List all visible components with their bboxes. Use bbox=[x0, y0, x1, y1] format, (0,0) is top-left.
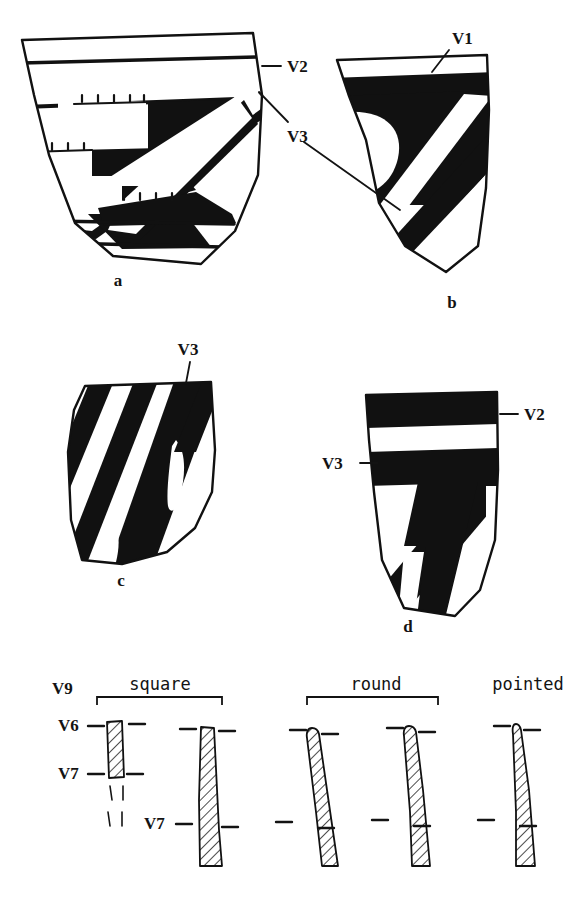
sherd-d-band-v3 bbox=[362, 448, 503, 486]
profile-group-title-pointed: pointed bbox=[492, 674, 564, 694]
panel-caption-b: b bbox=[447, 293, 456, 312]
panel-caption-c: c bbox=[117, 571, 125, 590]
callout-a-v2: V2 bbox=[287, 57, 308, 76]
profile-square-short-body bbox=[107, 721, 124, 778]
figure-plate: a b c bbox=[0, 0, 586, 912]
figure-canvas: a b c bbox=[0, 0, 586, 912]
callout-d-v3: V3 bbox=[322, 454, 343, 473]
callout-d-v2: V2 bbox=[524, 405, 545, 424]
callout-a-b-v3: V3 bbox=[287, 127, 308, 146]
profile-group-title-round: round bbox=[350, 674, 401, 694]
panel-caption-a: a bbox=[114, 271, 123, 290]
profile-label-v7-mid: V7 bbox=[144, 814, 165, 833]
profile-group-title-square: square bbox=[129, 674, 190, 694]
panel-caption-d: d bbox=[403, 617, 413, 636]
callout-c-v3: V3 bbox=[178, 340, 199, 359]
profile-label-v7-left: V7 bbox=[58, 764, 79, 783]
profile-label-v9: V9 bbox=[52, 679, 73, 698]
sherd-a-white-notch-1 bbox=[58, 101, 146, 139]
profile-label-v6: V6 bbox=[58, 716, 79, 735]
callout-b-v1: V1 bbox=[452, 29, 473, 48]
